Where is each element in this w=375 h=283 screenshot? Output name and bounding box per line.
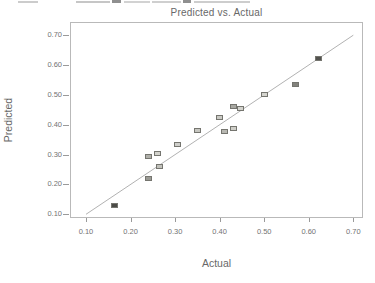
plot-area [70, 22, 363, 218]
x-tick-mark [131, 218, 132, 222]
data-point-marker [154, 151, 161, 156]
x-tick-mark [264, 218, 265, 222]
y-tick-label: 0.70 [28, 31, 62, 39]
x-tick-mark [86, 218, 87, 222]
data-point-marker [292, 82, 299, 87]
cropped-text-remnant [124, 1, 150, 3]
data-point-marker [221, 129, 228, 134]
y-tick-label: 0.10 [28, 210, 62, 218]
y-axis-label: Predicted [2, 65, 16, 175]
cropped-text-remnant [194, 1, 250, 3]
data-point-marker [174, 142, 181, 147]
x-tick-label: 0.60 [296, 228, 322, 236]
data-point-marker [111, 203, 118, 208]
x-tick-label: 0.20 [118, 228, 144, 236]
y-tick-mark [63, 155, 69, 156]
y-tick-label: 0.50 [28, 91, 62, 99]
x-tick-mark [309, 218, 310, 222]
x-tick-label: 0.70 [340, 228, 366, 236]
cropped-text-remnant [112, 0, 121, 3]
data-point-marker [145, 154, 152, 159]
cropped-text-remnant [183, 0, 191, 3]
y-tick-mark [63, 214, 69, 215]
y-tick-mark [63, 184, 69, 185]
data-point-marker [261, 92, 268, 97]
y-tick-mark [63, 65, 69, 66]
x-tick-label: 0.50 [251, 228, 277, 236]
y-tick-mark [63, 35, 69, 36]
cropped-text-remnant [18, 1, 38, 3]
data-point-marker [237, 106, 244, 111]
data-point-marker [230, 104, 237, 109]
chart-title: Predicted vs. Actual [70, 7, 363, 20]
y-tick-label: 0.30 [28, 151, 62, 159]
x-tick-mark [175, 218, 176, 222]
data-point-marker [230, 126, 237, 131]
x-tick-mark [220, 218, 221, 222]
data-point-marker [216, 115, 223, 120]
screenshot-root: Predicted vs. Actual Predicted Actual 0.… [0, 0, 375, 283]
y-tick-label: 0.20 [28, 180, 62, 188]
cropped-text-remnant [76, 1, 110, 3]
y-tick-label: 0.40 [28, 121, 62, 129]
y-tick-label: 0.60 [28, 61, 62, 69]
data-point-marker [194, 128, 201, 133]
cropped-text-remnant [152, 1, 181, 3]
x-tick-label: 0.10 [73, 228, 99, 236]
data-point-marker [156, 164, 163, 169]
y-tick-mark [63, 125, 69, 126]
y-tick-mark [63, 95, 69, 96]
x-axis-label: Actual [70, 257, 363, 271]
x-tick-label: 0.40 [207, 228, 233, 236]
data-point-marker [315, 56, 322, 61]
x-tick-mark [353, 218, 354, 222]
x-tick-label: 0.30 [162, 228, 188, 236]
data-point-marker [145, 176, 152, 181]
